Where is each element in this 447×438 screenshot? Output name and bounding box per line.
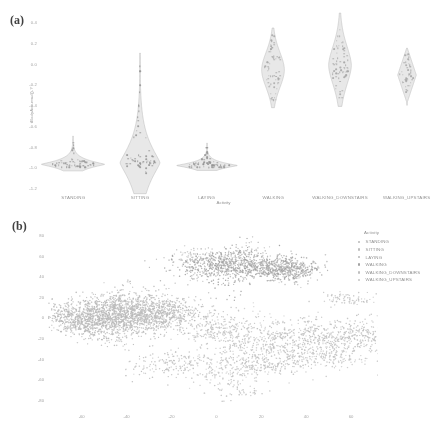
legend-item-label: SITTING xyxy=(366,247,384,252)
x-tick-label: -20 xyxy=(168,414,174,419)
panel-a-plot-area: 0.40.20.0-0.2-0.4-0.6-0.8-1.0-1.2 STANDI… xyxy=(40,22,440,188)
legend-item-label: STANDING xyxy=(366,239,390,244)
y-tick-label: 0.0 xyxy=(31,61,37,66)
violin-sitting xyxy=(119,53,161,194)
legend-item-standing[interactable]: STANDING xyxy=(355,238,445,246)
legend-marker-icon xyxy=(358,248,361,251)
x-tick-label: LAYING xyxy=(198,195,215,200)
legend-marker-icon xyxy=(358,241,361,244)
y-tick-label: -0.4 xyxy=(29,103,37,108)
violin-laying xyxy=(175,143,238,170)
y-tick-label: -0.2 xyxy=(29,82,37,87)
x-tick-label: 40 xyxy=(304,414,309,419)
x-tick-label: 60 xyxy=(349,414,354,419)
y-tick-label: 40 xyxy=(39,274,44,279)
y-tick-label: 0.4 xyxy=(31,20,37,25)
x-tick-label: -40 xyxy=(124,414,130,419)
y-tick-label: -40 xyxy=(38,356,44,361)
legend-items: STANDINGSITTINGLAYINGWALKINGWALKING_DOWN… xyxy=(355,238,445,284)
x-tick-label: WALKING_DOWNSTAIRS xyxy=(312,195,368,200)
legend-marker-icon xyxy=(358,271,361,274)
figure-root: (a) tBodyAcc-mad()-Y 0.40.20.0-0.2-0.4-0… xyxy=(0,0,447,438)
y-tick-label: -20 xyxy=(38,336,44,341)
legend-item-label: WALKING xyxy=(366,262,387,267)
panel-a-x-axis-label: Activity xyxy=(217,200,231,205)
y-tick-label: 0 xyxy=(42,315,44,320)
y-tick-label: 20 xyxy=(39,294,44,299)
violin-walking_upstairs xyxy=(396,48,417,105)
legend-item-laying[interactable]: LAYING xyxy=(355,253,445,261)
panel-b-letter: (b) xyxy=(12,219,27,234)
panel-b-scatter-canvas xyxy=(48,230,378,408)
legend-marker-icon xyxy=(358,256,361,259)
y-tick-label: 60 xyxy=(39,253,44,258)
legend-item-label: LAYING xyxy=(366,255,383,260)
legend-marker-icon xyxy=(358,279,361,282)
legend-item-label: WALKING_DOWNSTAIRS xyxy=(366,270,421,275)
legend-title: Activity xyxy=(364,230,445,235)
legend-item-walking[interactable]: WALKING xyxy=(355,261,445,269)
x-tick-label: 20 xyxy=(259,414,264,419)
x-tick-label: WALKING xyxy=(263,195,285,200)
panel-b: (b) 806040200-20-40-60-80 -60-40-2002040… xyxy=(0,210,447,438)
y-tick-label: 0.2 xyxy=(31,40,37,45)
violin-walking xyxy=(261,28,286,108)
legend-item-label: WALKING_UPSTAIRS xyxy=(366,277,413,282)
x-tick-label: 0 xyxy=(215,414,217,419)
y-tick-label: -1.2 xyxy=(29,186,37,191)
y-tick-label: -1.0 xyxy=(29,165,37,170)
panel-b-legend: Activity STANDINGSITTINGLAYINGWALKINGWAL… xyxy=(355,230,445,284)
x-tick-label: WALKING_UPSTAIRS xyxy=(383,195,430,200)
legend-marker-icon xyxy=(358,263,361,266)
y-tick-label: -80 xyxy=(38,397,44,402)
x-tick-label: -60 xyxy=(79,414,85,419)
x-tick-label: STANDING xyxy=(61,195,85,200)
x-tick-label: SITTING xyxy=(131,195,150,200)
y-tick-label: -60 xyxy=(38,377,44,382)
panel-a-letter: (a) xyxy=(10,13,24,28)
violin-standing xyxy=(40,136,106,171)
legend-item-sitting[interactable]: SITTING xyxy=(355,246,445,254)
y-tick-label: -0.6 xyxy=(29,123,37,128)
violin-walking_downstairs xyxy=(328,13,353,106)
y-tick-label: -0.8 xyxy=(29,144,37,149)
legend-item-walking_upstairs[interactable]: WALKING_UPSTAIRS xyxy=(355,276,445,284)
y-tick-label: 80 xyxy=(39,233,44,238)
panel-a: (a) tBodyAcc-mad()-Y 0.40.20.0-0.2-0.4-0… xyxy=(0,0,447,210)
panel-b-plot-area: 806040200-20-40-60-80 -60-40-200204060 xyxy=(48,230,378,408)
legend-item-walking_downstairs[interactable]: WALKING_DOWNSTAIRS xyxy=(355,269,445,277)
